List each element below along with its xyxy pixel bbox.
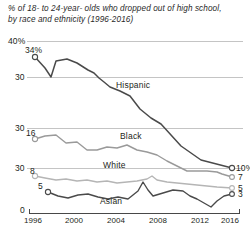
series-line-hispanic [35, 57, 232, 168]
y-axis-label-panel-3: 30 [15, 163, 25, 173]
series-start-marker-hispanic [32, 54, 37, 59]
series-end-marker-asian [230, 192, 235, 197]
series-label-white: White [103, 160, 126, 170]
series-label-black: Black [120, 131, 142, 141]
series-start-marker-asian [45, 189, 50, 194]
x-tick-2012: 2012 [184, 216, 216, 225]
start-label-hispanic: 34% [25, 45, 42, 55]
start-label-asian: 5 [38, 181, 43, 191]
chart-plot-area [0, 0, 250, 232]
series-label-asian: Asian [100, 196, 122, 206]
x-tick-2008: 2008 [142, 216, 174, 225]
series-line-white [35, 176, 232, 188]
end-label-asian: 3 [238, 189, 243, 199]
y-axis-label-panel-1: 30 [15, 72, 25, 82]
end-label-black: 7 [238, 172, 243, 182]
x-tick-2016: 2016 [214, 216, 246, 225]
x-tick-2004: 2004 [100, 216, 132, 225]
chart-container: % of 18- to 24-year- olds who dropped ou… [0, 0, 250, 232]
series-end-marker-hispanic [229, 165, 234, 170]
y-axis-label-zero: 0 [20, 205, 25, 215]
series-label-hispanic: Hispanic [116, 80, 150, 90]
y-axis-label-40: 40% [8, 36, 25, 46]
x-tick-2000: 2000 [58, 216, 90, 225]
series-end-marker-white [230, 186, 235, 191]
series-end-marker-black [230, 175, 235, 180]
start-label-white: 8 [30, 166, 35, 176]
y-axis-label-panel-2: 30 [15, 123, 25, 133]
series-line-black [35, 135, 232, 177]
start-label-black: 16 [26, 128, 35, 138]
x-tick-1996: 1996 [17, 216, 49, 225]
